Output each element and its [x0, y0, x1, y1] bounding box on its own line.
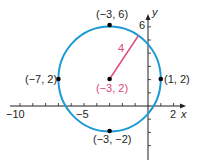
point-right: [159, 77, 164, 82]
label-point-top: (−3, 6): [96, 8, 128, 20]
label-point-right: (1, 2): [164, 73, 190, 85]
x-axis-label: x: [180, 108, 187, 120]
point-top: [107, 23, 112, 28]
tick-label-x-neg5: −5: [76, 108, 89, 120]
label-center: (−3, 2): [96, 82, 128, 94]
label-radius: 4: [118, 42, 124, 54]
label-point-bottom: (−3, −2): [93, 133, 132, 145]
tick-label-x-neg10: −10: [6, 108, 25, 120]
tick-label-x-2: 2: [170, 108, 176, 120]
y-axis-label: y: [151, 6, 159, 18]
label-point-left: (−7, 2): [25, 73, 57, 85]
tick-label-y-6: 6: [139, 19, 145, 31]
center-point: [107, 77, 112, 82]
y-axis-arrow-icon: [146, 14, 151, 20]
coordinate-plane: (−3, 6) (−7, 2) (1, 2) (−3, −2) (−3, 2) …: [0, 0, 198, 166]
